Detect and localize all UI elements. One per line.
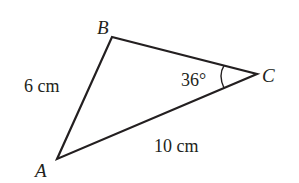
vertex-label-b: B [97,17,109,38]
side-label-ab: 6 cm [24,76,60,96]
angle-label-c: 36° [181,70,206,90]
vertex-label-c: C [262,65,275,86]
side-label-ac: 10 cm [154,136,199,156]
triangle-diagram: B C A 6 cm 10 cm 36° [0,0,299,183]
vertex-label-a: A [33,160,47,181]
angle-arc-c [221,66,224,88]
